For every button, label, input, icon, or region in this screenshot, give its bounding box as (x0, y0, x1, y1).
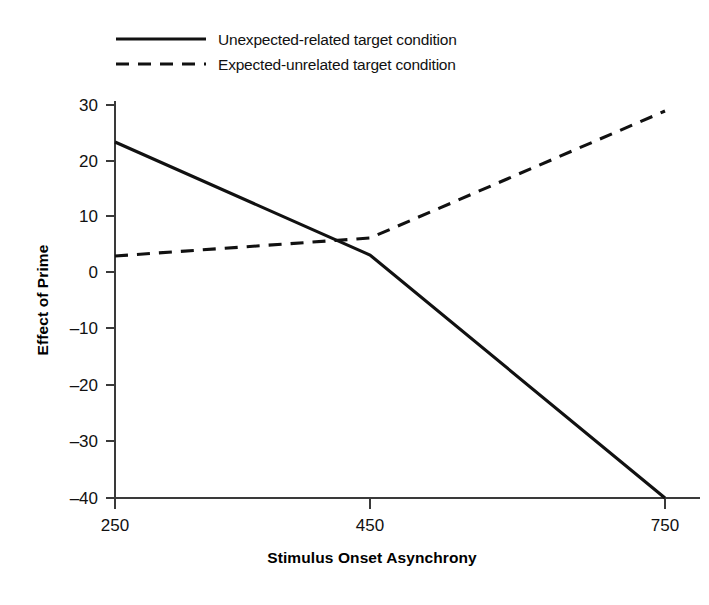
series-group (115, 111, 665, 498)
line-chart: Unexpected-related target condition Expe… (0, 0, 709, 605)
legend-label-unexpected-related: Unexpected-related target condition (218, 31, 457, 48)
y-tick-label-0: 0 (89, 263, 98, 282)
series-line-unexpected-related (115, 142, 665, 498)
x-tick-label-250: 250 (101, 516, 129, 535)
series-line-expected-unrelated (115, 111, 665, 256)
y-tick-label-minus-40: –40 (70, 489, 98, 508)
y-tick-label-minus-30: –30 (70, 432, 98, 451)
y-tick-label-30: 30 (79, 96, 98, 115)
x-axis-title: Stimulus Onset Asynchrony (267, 549, 477, 566)
y-axis-ticks (106, 105, 115, 498)
y-axis-title: Effect of Prime (34, 244, 51, 355)
figure-container: Unexpected-related target condition Expe… (0, 0, 709, 605)
y-tick-label-minus-10: –10 (70, 319, 98, 338)
legend-label-expected-unrelated: Expected-unrelated target condition (218, 56, 456, 73)
chart-legend: Unexpected-related target condition Expe… (116, 31, 457, 73)
y-axis-tick-labels: 30 20 10 0 –10 –20 –30 –40 (70, 96, 98, 508)
x-axis-tick-labels: 250 450 750 (101, 516, 679, 535)
x-axis-ticks (115, 498, 665, 509)
y-tick-label-20: 20 (79, 152, 98, 171)
x-tick-label-450: 450 (356, 516, 384, 535)
y-tick-label-10: 10 (79, 207, 98, 226)
axis-lines (106, 101, 700, 498)
y-tick-label-minus-20: –20 (70, 376, 98, 395)
x-tick-label-750: 750 (651, 516, 679, 535)
